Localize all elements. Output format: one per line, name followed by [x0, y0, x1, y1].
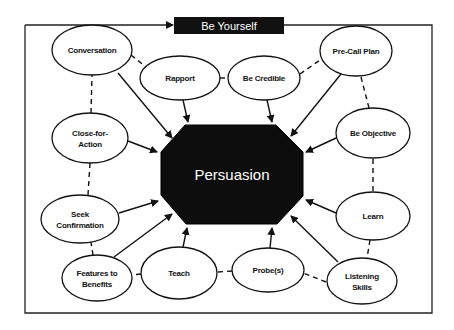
pre-call-plan-label: Pre-Call Plan — [333, 47, 380, 56]
features-to-benefits-label: Benefits — [82, 280, 113, 289]
persuasion-diagram: Be Yourself Persuasion ConversationRappo… — [0, 0, 454, 330]
seek-confirmation-ellipse — [41, 195, 119, 243]
probes-label: Probe(s) — [253, 266, 284, 275]
node-listening-skills: ListeningSkills — [327, 258, 397, 304]
be-yourself-banner: Be Yourself — [174, 17, 284, 34]
arrow-probes-to-persuasion — [270, 228, 272, 248]
listening-skills-ellipse — [327, 258, 397, 304]
banner-label: Be Yourself — [201, 20, 258, 32]
listening-skills-label: Skills — [352, 283, 372, 292]
node-probes: Probe(s) — [232, 248, 304, 292]
node-be-objective: Be Objective — [336, 108, 410, 158]
seek-confirmation-label: Confirmation — [56, 221, 104, 230]
node-be-credible: Be Credible — [228, 56, 300, 100]
node-seek-confirmation: SeekConfirmation — [41, 195, 119, 243]
dashed-link-pre-call-plan-to-be-objective — [361, 77, 369, 108]
learn-label: Learn — [363, 212, 384, 221]
dashed-link-probes-to-teach — [217, 271, 232, 272]
be-credible-label: Be Credible — [243, 74, 286, 83]
teach-label: Teach — [168, 269, 190, 278]
node-learn: Learn — [336, 192, 410, 240]
arrow-be-objective-to-persuasion — [306, 138, 336, 152]
node-conversation: Conversation — [52, 25, 132, 75]
rapport-label: Rapport — [165, 74, 195, 83]
seek-confirmation-label: Seek — [71, 210, 90, 219]
dashed-link-listening-skills-to-probes — [303, 273, 326, 282]
features-to-benefits-ellipse — [62, 255, 132, 301]
arrow-teach-to-persuasion — [183, 228, 187, 247]
persuasion-label: Persuasion — [194, 166, 269, 183]
node-pre-call-plan: Pre-Call Plan — [320, 26, 392, 76]
arrow-learn-to-persuasion — [306, 200, 336, 213]
close-for-action-label: Action — [78, 140, 102, 149]
persuasion-hub: Persuasion — [161, 125, 303, 224]
node-close-for-action: Close-for-Action — [52, 113, 128, 163]
close-for-action-label: Close-for- — [72, 129, 108, 138]
listening-skills-label: Listening — [345, 272, 379, 281]
features-to-benefits-label: Features to — [77, 269, 118, 278]
dashed-link-close-for-action-to-conversation — [91, 75, 92, 113]
dashed-link-seek-confirmation-to-close-for-action — [88, 163, 90, 195]
dashed-link-learn-to-listening-skills — [367, 240, 370, 258]
dashed-link-features-to-benefits-to-seek-confirmation — [91, 242, 93, 255]
node-teach: Teach — [141, 247, 217, 299]
arrow-listening-skills-to-persuasion — [291, 216, 338, 262]
node-rapport: Rapport — [140, 56, 220, 100]
close-for-action-ellipse — [52, 113, 128, 163]
conversation-label: Conversation — [68, 46, 117, 55]
dashed-link-conversation-to-rapport — [131, 55, 146, 67]
dashed-link-teach-to-features-to-benefits — [132, 274, 141, 275]
dashed-link-be-credible-to-pre-call-plan — [300, 60, 320, 74]
arrow-seek-confirmation-to-persuasion — [119, 201, 158, 213]
node-features-to-benefits: Features toBenefits — [62, 255, 132, 301]
be-objective-label: Be Objective — [350, 129, 397, 138]
diagram-canvas: Be Yourself Persuasion ConversationRappo… — [0, 0, 454, 330]
arrow-be-credible-to-persuasion — [267, 100, 272, 122]
arrow-close-for-action-to-persuasion — [128, 141, 157, 152]
arrow-rapport-to-persuasion — [183, 100, 188, 122]
